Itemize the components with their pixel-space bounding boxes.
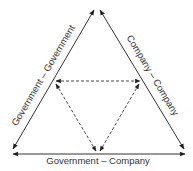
right-edge-arrow [100, 10, 184, 149]
left-edge-label: Government – Government [9, 23, 77, 128]
relationship-triangle-diagram: Government – Government Company – Compan… [0, 0, 193, 171]
bottom-edge-label: Government – Company [46, 155, 150, 166]
inner-left-dashed-arrow [56, 84, 96, 151]
right-edge-label: Company – Company [125, 33, 182, 118]
inner-right-dashed-arrow [100, 84, 139, 151]
